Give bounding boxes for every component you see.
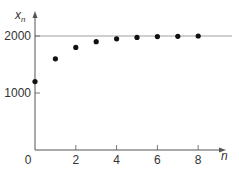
data-point — [32, 79, 37, 84]
data-points — [32, 33, 200, 84]
data-point — [114, 36, 119, 41]
data-point — [155, 34, 160, 39]
data-point — [94, 39, 99, 44]
chart: 0246810002000 xn n — [0, 0, 239, 175]
x-tick-label: 8 — [195, 153, 202, 167]
data-point — [53, 56, 58, 61]
y-tick-label: 2000 — [4, 29, 31, 43]
x-axis-label: n — [221, 149, 228, 163]
x-tick-label: 2 — [72, 153, 79, 167]
y-tick-label: 1000 — [4, 86, 31, 100]
data-point — [196, 33, 201, 38]
data-point — [134, 35, 139, 40]
data-point — [175, 34, 180, 39]
x-tick-label: 6 — [154, 153, 161, 167]
axes — [33, 11, 227, 153]
y-axis-label: xn — [14, 8, 26, 24]
axis-labels: xn n — [14, 8, 228, 163]
data-point — [73, 45, 78, 50]
x-tick-label: 0 — [25, 153, 32, 167]
ticks: 0246810002000 — [4, 29, 202, 167]
y-axis-arrow-icon — [33, 11, 38, 18]
x-tick-label: 4 — [113, 153, 120, 167]
